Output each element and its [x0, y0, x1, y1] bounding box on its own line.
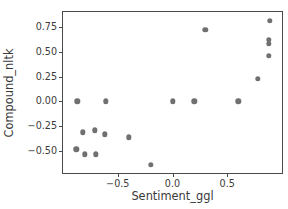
data-point	[203, 27, 208, 32]
data-points-layer	[63, 12, 282, 173]
scatter-plot-figure: Sentiment 0.750.500.250.00−0.25−0.50 −0.…	[0, 0, 288, 209]
data-point	[255, 76, 260, 81]
data-point	[192, 99, 197, 104]
x-tick-mark	[118, 173, 119, 177]
y-axis-title-text: Compound_nltk	[2, 48, 16, 137]
data-point	[75, 99, 80, 104]
y-tick-label: −0.50	[28, 146, 57, 156]
y-tick-label: 0.50	[36, 47, 57, 57]
x-axis-title: Sentiment_ggl	[62, 190, 283, 203]
data-point	[92, 128, 97, 133]
x-tick-label: 0.0	[165, 178, 180, 189]
data-point	[102, 132, 107, 137]
data-point	[93, 151, 98, 156]
plot-area: 0.750.500.250.00−0.25−0.50 −0.50.00.5	[62, 11, 283, 174]
data-point	[235, 99, 240, 104]
clipped-title-text: Sentiment	[0, 0, 288, 3]
y-tick-label: −0.25	[28, 121, 57, 131]
data-point	[103, 99, 108, 104]
data-point	[82, 151, 87, 156]
data-point	[170, 99, 175, 104]
x-tick-mark	[227, 173, 228, 177]
data-point	[266, 53, 271, 58]
y-axis-title: Compound_nltk	[2, 11, 16, 174]
data-point	[80, 130, 85, 135]
data-point	[73, 146, 78, 151]
y-tick-label: 0.00	[36, 96, 57, 106]
x-tick-label: −0.5	[106, 178, 129, 189]
data-point	[126, 135, 131, 140]
x-tick-mark	[173, 173, 174, 177]
data-point	[267, 18, 272, 23]
y-tick-label: 0.75	[36, 22, 57, 32]
x-tick-label: 0.5	[220, 178, 235, 189]
data-point	[148, 162, 153, 167]
y-tick-label: 0.25	[36, 72, 57, 82]
